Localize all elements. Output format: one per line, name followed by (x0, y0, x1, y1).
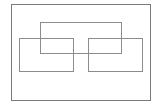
left-rectangle (19, 38, 74, 72)
right-rectangle (88, 38, 143, 72)
